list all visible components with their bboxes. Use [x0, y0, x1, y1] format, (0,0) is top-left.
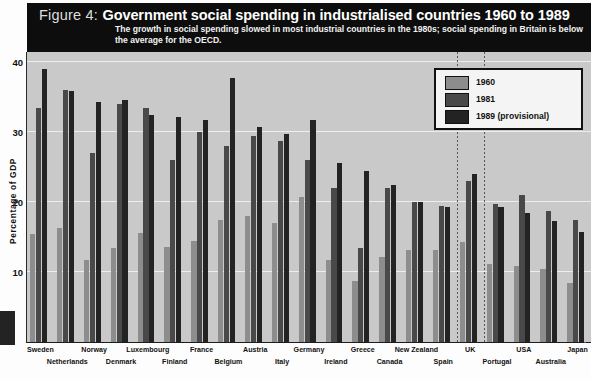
legend-label: 1960: [476, 77, 495, 87]
bar: [63, 90, 68, 342]
x-axis-label-australia: Australia: [536, 358, 566, 366]
bar: [305, 160, 310, 342]
bar: [138, 233, 143, 342]
x-axis-label-uk: UK: [465, 346, 475, 354]
x-axis-label-spain: Spain: [434, 358, 453, 366]
bar: [111, 248, 116, 342]
bar: [251, 136, 256, 342]
x-axis-label-canada: Canada: [377, 358, 403, 366]
gridline-40: [27, 61, 591, 62]
x-axis-label-norway: Norway: [81, 346, 107, 354]
x-axis-label-italy: Italy: [275, 358, 289, 366]
bar: [379, 257, 384, 342]
bar: [487, 264, 492, 342]
bar: [299, 197, 304, 342]
bar: [143, 108, 148, 342]
x-axis-label-austria: Austria: [243, 346, 267, 354]
x-axis-label-portugal: Portugal: [483, 358, 512, 366]
x-axis-label-germany: Germany: [294, 346, 325, 354]
bar: [358, 248, 363, 342]
bar: [412, 202, 417, 342]
x-axis-label-finland: Finland: [162, 358, 187, 366]
bar: [170, 160, 175, 342]
bar: [331, 188, 336, 342]
x-axis-label-usa: USA: [516, 346, 531, 354]
x-axis-label-denmark: Denmark: [106, 358, 136, 366]
legend-label: 1989 (provisional): [476, 111, 549, 121]
legend: 196019811989 (provisional): [434, 68, 583, 130]
bar: [472, 174, 477, 342]
bar: [272, 223, 277, 342]
bar: [406, 250, 411, 342]
bar: [117, 104, 122, 342]
bar: [385, 188, 390, 342]
x-axis-label-new-zealand: New Zealand: [395, 346, 438, 354]
legend-swatch-icon: [445, 76, 469, 90]
y-tick-label-10: 10: [12, 267, 23, 278]
figure-subtitle: The growth in social spending slowed in …: [115, 24, 587, 47]
legend-label: 1981: [476, 94, 495, 104]
bar: [224, 146, 229, 342]
bar: [191, 241, 196, 342]
bar: [364, 171, 369, 342]
bar: [197, 132, 202, 342]
bar: [433, 250, 438, 342]
bar: [122, 100, 127, 342]
bar: [218, 220, 223, 342]
x-axis-label-sweden: Sweden: [27, 346, 54, 354]
bar: [337, 163, 342, 342]
x-axis-label-ireland: Ireland: [324, 358, 347, 366]
bar: [540, 269, 545, 342]
bar: [546, 211, 551, 342]
bar: [418, 202, 423, 342]
title-row: Figure 4: Government social spending in …: [39, 6, 570, 24]
bar: [445, 207, 450, 342]
bar: [176, 117, 181, 342]
bar: [57, 228, 62, 342]
x-axis-label-greece: Greece: [351, 346, 375, 354]
y-tick-label-30: 30: [12, 127, 23, 138]
title-band: Figure 4: Government social spending in …: [27, 3, 591, 52]
figure-label: Figure 4:: [39, 7, 98, 23]
legend-swatch-icon: [445, 93, 469, 107]
x-axis-labels: SwedenNetherlandsNorwayDenmarkLuxembourg…: [27, 344, 591, 381]
gridline-30: [27, 131, 591, 132]
bar: [460, 242, 465, 342]
bar: [352, 281, 357, 342]
bar: [84, 260, 89, 342]
figure-title: Government social spending in industrial…: [102, 7, 569, 23]
bar: [579, 232, 584, 342]
bar: [203, 120, 208, 342]
bar: [466, 181, 471, 342]
bar: [439, 206, 444, 342]
bar: [498, 207, 503, 342]
bar: [278, 141, 283, 342]
bar: [42, 69, 47, 342]
y-axis-title: Percentage of GDP: [8, 149, 18, 253]
bar: [310, 120, 315, 342]
bar: [149, 115, 154, 342]
bar: [36, 108, 41, 342]
bar: [90, 153, 95, 342]
x-axis-label-france: France: [190, 346, 213, 354]
bar: [30, 234, 35, 342]
legend-swatch-icon: [445, 110, 469, 124]
bar: [69, 91, 74, 342]
bar: [493, 204, 498, 342]
bar: [567, 283, 572, 342]
bar: [164, 247, 169, 342]
bar: [257, 127, 262, 342]
bar: [514, 266, 519, 342]
y-tick-label-40: 40: [12, 57, 23, 68]
bar: [391, 185, 396, 342]
bar: [284, 134, 289, 342]
bar: [230, 78, 235, 342]
x-axis-label-netherlands: Netherlands: [47, 358, 88, 366]
bar: [525, 213, 530, 342]
x-axis-label-belgium: Belgium: [214, 358, 242, 366]
x-axis-label-japan: Japan: [567, 346, 588, 354]
bar: [245, 216, 250, 342]
x-axis-line: [26, 342, 591, 343]
bar: [326, 260, 331, 342]
bar: [519, 195, 524, 342]
